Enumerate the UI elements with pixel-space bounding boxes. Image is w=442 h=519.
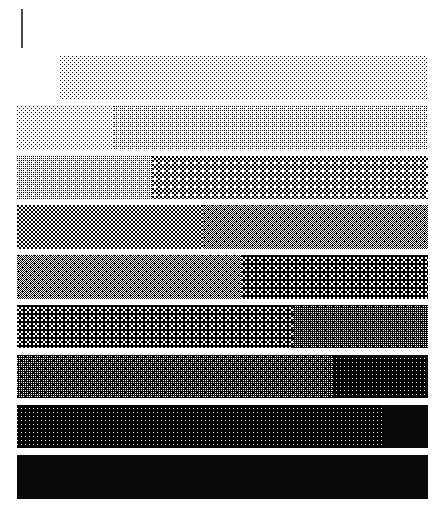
- wedge-bar-segment: [383, 405, 428, 448]
- wedge-bar-segment: [114, 106, 428, 149]
- page-canvas: [0, 0, 442, 519]
- wedge-bar-segment: [203, 205, 428, 249]
- wedge-bar-row: [17, 455, 428, 499]
- wedge-bar-segment: [60, 56, 428, 100]
- wedge-bar-segment: [17, 106, 114, 149]
- wedge-bar-row: [17, 255, 428, 299]
- wedge-bar-row: [17, 205, 428, 249]
- wedge-bar-segment: [332, 355, 428, 398]
- wedge-bar-row: [17, 106, 428, 149]
- wedge-bar-segment: [17, 455, 428, 499]
- wedge-bar-segment: [152, 156, 428, 199]
- wedge-bar-segment: [17, 156, 152, 199]
- wedge-bar-row: [17, 156, 428, 199]
- wedge-bar-segment: [293, 305, 428, 348]
- wedge-bar-row: [17, 305, 428, 348]
- wedge-bar-segment: [17, 305, 293, 348]
- wedge-bar-row: [17, 405, 428, 448]
- wedge-bar-row: [17, 355, 428, 398]
- wedge-bar-segment: [17, 405, 383, 448]
- wedge-bar-segment: [17, 205, 203, 249]
- wedge-bar-segment: [17, 355, 332, 398]
- wedge-bar-segment: [241, 255, 428, 299]
- wedge-bar-row: [60, 56, 428, 100]
- wedge-bar-segment: [17, 255, 241, 299]
- halftone-wedge-stack: [0, 0, 442, 519]
